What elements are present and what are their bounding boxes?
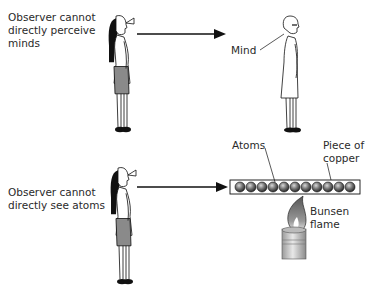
observer-top xyxy=(109,16,134,133)
atoms-row xyxy=(235,182,355,192)
top-caption-line2: directly perceive xyxy=(8,24,96,37)
copper-label-line1: Piece of xyxy=(323,139,364,152)
bottom-caption-line1: Observer cannot xyxy=(8,186,96,199)
top-caption-line3: minds xyxy=(8,37,40,50)
flame-label-line1: Bunsen xyxy=(310,205,349,218)
top-caption-line1: Observer cannot xyxy=(8,11,96,24)
mind-person xyxy=(260,16,301,133)
observer-bottom xyxy=(111,168,136,285)
atoms-label: Atoms xyxy=(232,139,265,152)
arrow-bottom xyxy=(137,182,228,192)
flame-label-line2: flame xyxy=(310,218,340,231)
arrow-top xyxy=(137,29,226,39)
diagram-canvas xyxy=(0,0,374,293)
mind-label: Mind xyxy=(231,44,256,57)
bottom-caption-line2: directly see atoms xyxy=(8,199,105,212)
copper-label-line2: copper xyxy=(323,152,359,165)
bunsen-burner xyxy=(282,196,306,259)
